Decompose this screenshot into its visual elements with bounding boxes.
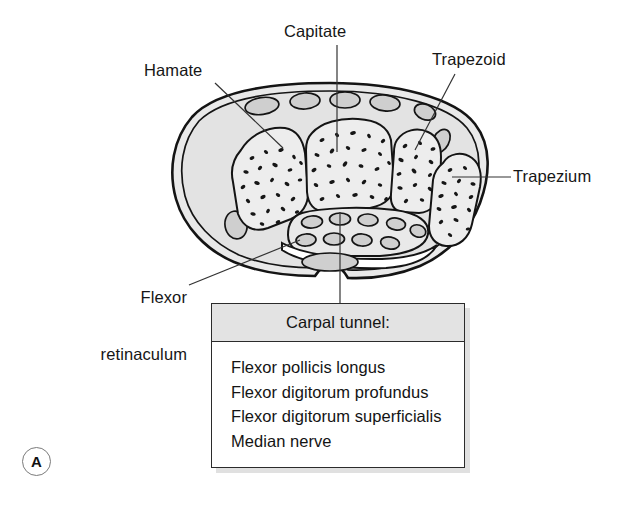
info-box-item: Flexor digitorum profundus [231,380,464,405]
figure-root: Capitate Hamate Trapezoid Trapezium Flex… [0,0,625,516]
panel-letter-a: A [22,447,51,476]
label-trapezium: Trapezium [513,167,591,186]
palmar-subcutaneous-tendon [302,253,358,271]
info-box-title: Carpal tunnel: [286,313,390,332]
info-box-item: Median nerve [231,429,464,454]
carpal-tunnel-info-box: Carpal tunnel: Flexor pollicis longus Fl… [211,303,465,468]
label-hamate: Hamate [144,61,202,80]
label-flexor-retinaculum-line1: Flexor [60,288,187,307]
info-box-item: Flexor digitorum superficialis [231,404,464,429]
label-trapezoid: Trapezoid [432,50,506,69]
label-capitate: Capitate [284,22,346,41]
info-box-item: Flexor pollicis longus [231,355,464,380]
carpal-tunnel-contents [288,208,428,256]
bone-capitate [306,119,394,211]
info-box-body: Flexor pollicis longus Flexor digitorum … [212,342,464,453]
label-flexor-retinaculum-line2: retinaculum [60,345,187,364]
label-flexor-retinaculum: Flexor retinaculum [60,250,187,402]
info-box-header: Carpal tunnel: [212,304,464,342]
